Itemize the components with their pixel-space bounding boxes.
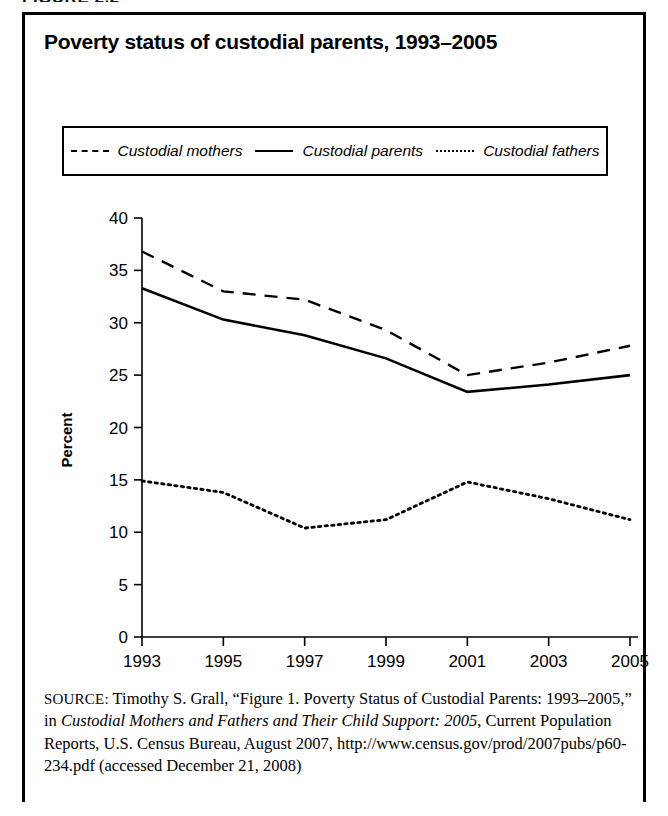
data-series-group <box>142 252 630 529</box>
data-line-custodial-fathers <box>142 481 630 528</box>
source-label: SOURCE: <box>44 691 109 707</box>
y-axis-title: Percent <box>58 412 75 467</box>
line-chart-svg: 4035302520151050 19931995199719992001200… <box>0 0 668 700</box>
chart-plot-area: 4035302520151050 19931995199719992001200… <box>0 0 668 700</box>
x-axis-tick-label: 2001 <box>448 652 486 671</box>
x-axis-tick-label: 2003 <box>530 652 568 671</box>
y-axis-tick-label: 10 <box>109 523 128 542</box>
y-axis-tick-label: 30 <box>109 314 128 333</box>
x-axis-tick-label: 1993 <box>123 652 161 671</box>
x-axis-tick-label: 1997 <box>286 652 324 671</box>
source-title-part-1: Custodial Mothers and Fathers and Their <box>61 711 337 730</box>
data-line-custodial-mothers <box>142 252 630 376</box>
y-axis-tick-label: 15 <box>109 471 128 490</box>
y-axis-tick-label: 0 <box>119 628 128 647</box>
y-axis-tick-label: 35 <box>109 261 128 280</box>
x-axis-tick-label: 2005 <box>611 652 649 671</box>
source-title-part-2: Child Support: 2005 <box>341 711 477 730</box>
y-axis-tick-label: 40 <box>109 209 128 228</box>
source-note: SOURCE: Timothy S. Grall, “Figure 1. Pov… <box>44 688 634 777</box>
y-axis-tick-label: 5 <box>119 576 128 595</box>
y-axis: 4035302520151050 <box>109 209 142 647</box>
x-axis: 1993199519971999200120032005 <box>123 637 649 671</box>
source-line-1: Timothy S. Grall, “Figure 1. Poverty Sta… <box>109 689 485 708</box>
x-axis-tick-label: 1999 <box>367 652 405 671</box>
source-line-5: (accessed December 21, 2008) <box>99 756 302 775</box>
data-line-custodial-parents <box>142 288 630 392</box>
x-axis-tick-label: 1995 <box>204 652 242 671</box>
y-axis-tick-label: 20 <box>109 419 128 438</box>
y-axis-tick-label: 25 <box>109 366 128 385</box>
